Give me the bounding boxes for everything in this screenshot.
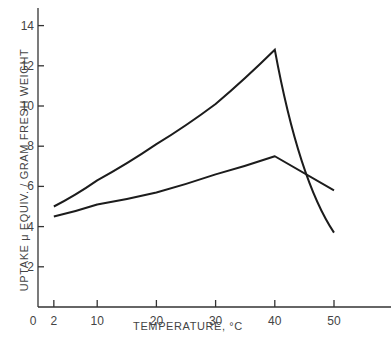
series-group [54, 50, 334, 233]
x-tick-label: 0 [30, 314, 37, 328]
chart: 2468101214 021020304050 UPTAKE μ EQUIV. … [0, 0, 391, 338]
x-tick-label: 2 [50, 314, 57, 328]
x-tick-label: 10 [91, 314, 105, 328]
series-line-lower [54, 156, 334, 216]
x-axis-label: TEMPERATURE, °C [133, 320, 243, 332]
x-tick-label: 40 [268, 314, 282, 328]
y-tick-label: 14 [21, 19, 35, 33]
x-tick-label: 50 [327, 314, 341, 328]
y-axis-label: UPTAKE μ EQUIV. / GRAM FRESH WEIGHT [18, 49, 30, 291]
